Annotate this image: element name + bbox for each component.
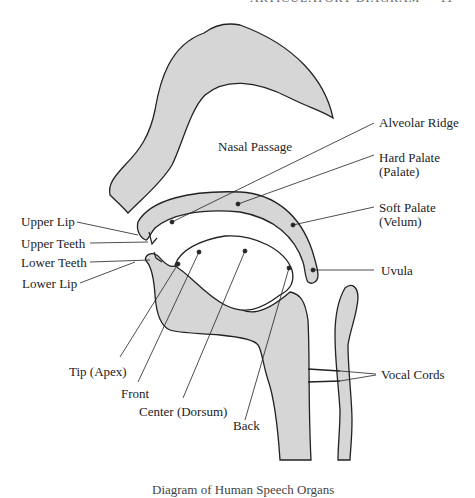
label-vocal-cords: Vocal Cords [381,367,445,382]
figure-caption: Diagram of Human Speech Organs [152,482,334,498]
label-upper-teeth: Upper Teeth [21,236,85,251]
label-tip: Tip (Apex) [69,364,127,379]
label-lower-teeth: Lower Teeth [21,255,87,270]
label-hard-palate: Hard Palate [379,150,440,165]
larynx-shape [335,285,358,460]
label-lower-lip: Lower Lip [22,276,77,291]
label-alveolar-ridge: Alveolar Ridge [379,115,459,130]
label-upper-lip: Upper Lip [21,214,75,229]
label-back: Back [233,418,260,433]
label-center: Center (Dorsum) [139,404,227,419]
label-nasal-passage: Nasal Passage [218,139,292,154]
nasal-cavity-shape [110,24,333,213]
label-soft-palate-alt: (Velum) [379,214,422,229]
label-uvula: Uvula [381,263,413,278]
label-hard-palate-alt: (Palate) [379,164,419,179]
label-front: Front [121,386,149,401]
label-soft-palate: Soft Palate [379,200,436,215]
